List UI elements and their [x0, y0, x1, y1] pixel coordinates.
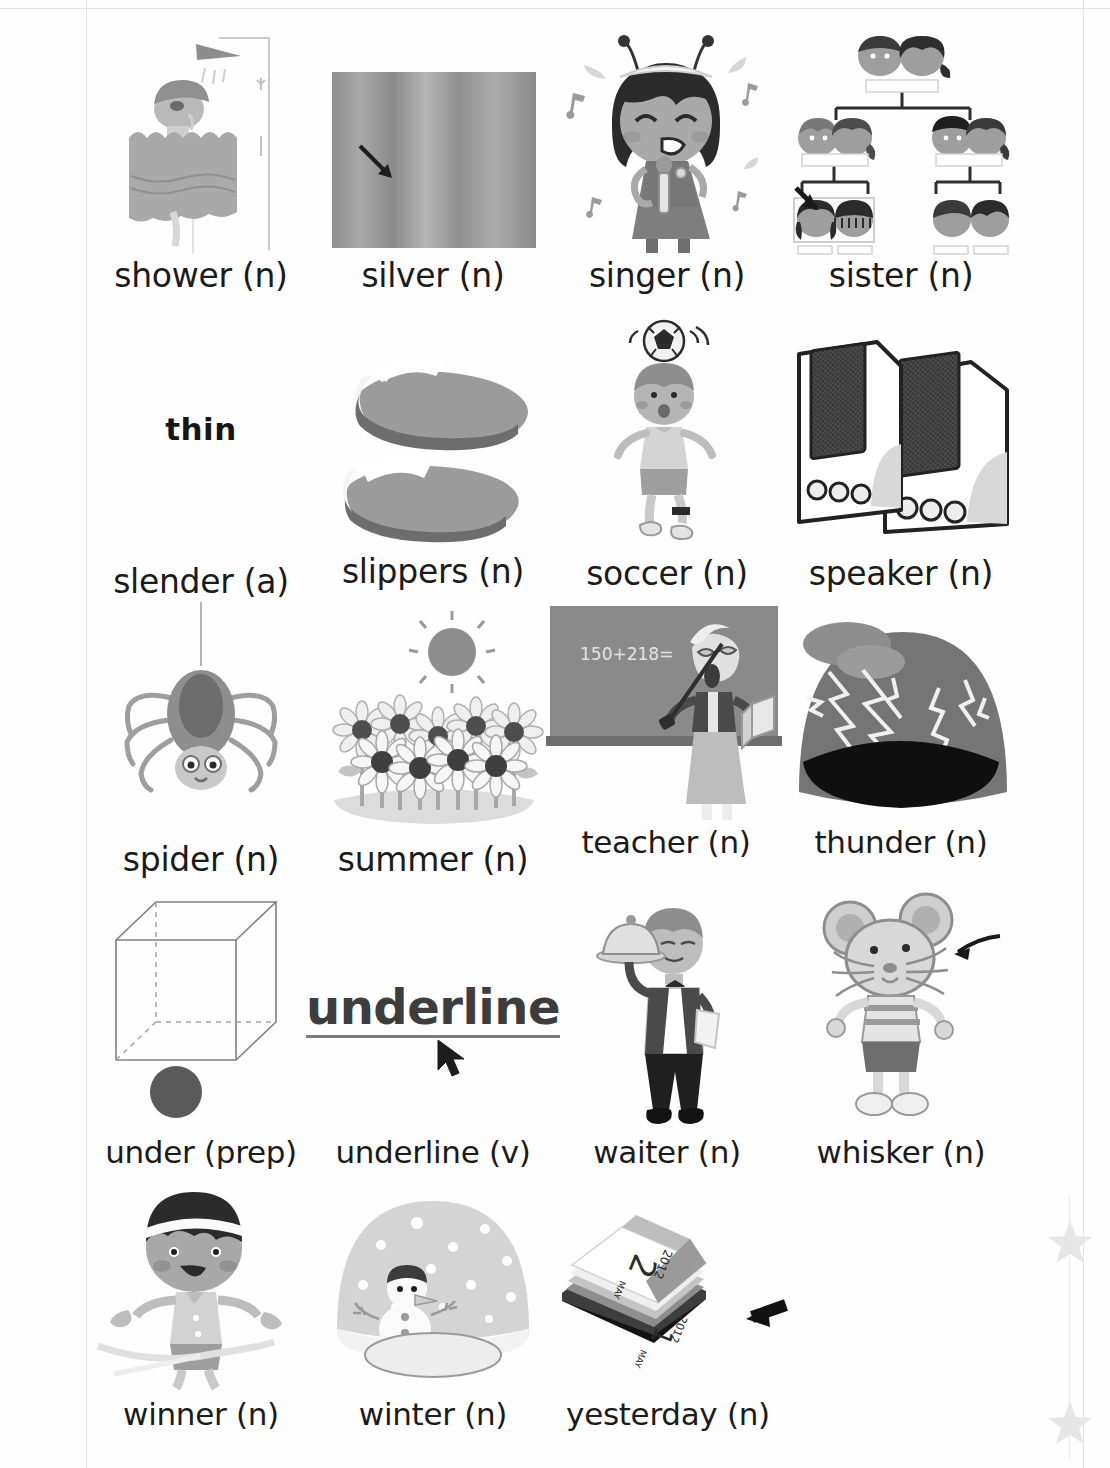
illustration-waiter: [552, 890, 782, 1130]
illustration-under: [86, 890, 316, 1130]
illustration-sister: [786, 24, 1016, 254]
illustration-singer: [552, 24, 782, 254]
word-label: singer (n): [552, 256, 782, 295]
blackboard-equation: 150+218=: [580, 644, 673, 664]
word-label: shower (n): [86, 256, 316, 295]
entry-sister[interactable]: sister (n): [786, 24, 1016, 314]
illustration-word-underline: underline: [306, 983, 560, 1038]
entry-shower[interactable]: shower (n): [86, 24, 316, 314]
entry-summer[interactable]: summer (n): [318, 602, 548, 892]
star-upper-icon: [1046, 1219, 1094, 1267]
illustration-soccer: [552, 314, 782, 544]
entry-under[interactable]: under (prep): [86, 890, 316, 1180]
entry-grid: shower (n): [86, 14, 1083, 1464]
page-rule-top: [0, 8, 1110, 9]
illustration-underline: underline: [318, 890, 548, 1130]
word-label: waiter (n): [552, 1134, 782, 1170]
entry-slender[interactable]: thin slender (a): [86, 314, 316, 604]
word-label: soccer (n): [552, 554, 782, 593]
entry-row-2: thin slender (a): [86, 314, 1083, 604]
entry-soccer[interactable]: soccer (n): [552, 314, 782, 604]
illustration-silver: [318, 24, 548, 254]
calendar-month-bottom: MAY: [632, 1348, 648, 1370]
word-label: whisker (n): [786, 1134, 1016, 1170]
entry-thunder[interactable]: thunder (n): [786, 602, 1016, 892]
entry-waiter[interactable]: waiter (n): [552, 890, 782, 1180]
word-label: slender (a): [86, 562, 316, 601]
star-lower-icon: [1046, 1400, 1094, 1448]
word-label: winner (n): [86, 1396, 316, 1432]
entry-singer[interactable]: singer (n): [552, 24, 782, 314]
entry-silver[interactable]: silver (n): [318, 24, 548, 314]
word-label: sister (n): [786, 256, 1016, 295]
entry-slippers[interactable]: slippers (n): [318, 314, 548, 604]
word-label: summer (n): [318, 840, 548, 879]
entry-speaker[interactable]: speaker (n): [786, 314, 1016, 604]
word-label: speaker (n): [786, 554, 1016, 593]
illustration-slippers: [318, 314, 548, 544]
entry-row-4: under (prep) underline underline (v): [86, 890, 1083, 1180]
illustration-yesterday: 2012 2 MAY 2012 1 MAY: [538, 1184, 798, 1389]
illustration-speaker: [786, 314, 1016, 544]
word-label: teacher (n): [546, 824, 786, 860]
illustration-word-thin: thin: [165, 411, 237, 447]
illustration-summer: [318, 602, 548, 832]
word-label: thunder (n): [786, 824, 1016, 860]
entry-yesterday[interactable]: 2012 2 MAY 2012 1 MAY: [538, 1184, 798, 1464]
word-label: silver (n): [318, 256, 548, 295]
illustration-slender: thin: [86, 314, 316, 544]
entry-winner[interactable]: winner (n): [86, 1184, 316, 1464]
illustration-winner: [86, 1184, 316, 1389]
word-label: yesterday (n): [538, 1396, 798, 1432]
entry-row-3: spider (n): [86, 602, 1083, 892]
illustration-teacher: 150+218=: [546, 602, 786, 820]
word-label: slippers (n): [318, 552, 548, 591]
entry-winter[interactable]: winter (n): [318, 1184, 548, 1464]
entry-spider[interactable]: spider (n): [86, 602, 316, 892]
illustration-thunder: [786, 602, 1016, 827]
entry-whisker[interactable]: whisker (n): [786, 890, 1016, 1180]
entry-row-1: shower (n): [86, 24, 1083, 314]
word-label: under (prep): [86, 1134, 316, 1170]
illustration-winter: [318, 1184, 548, 1389]
word-label: underline (v): [318, 1134, 548, 1170]
entry-row-5: winner (n): [86, 1184, 1083, 1464]
cursor-arrow-icon: [436, 1038, 470, 1078]
word-label: spider (n): [86, 840, 316, 879]
word-label: winter (n): [318, 1396, 548, 1432]
illustration-spider: [86, 602, 316, 832]
illustration-shower: [86, 24, 316, 254]
entry-underline[interactable]: underline underline (v): [318, 890, 548, 1180]
entry-teacher[interactable]: 150+218=: [546, 602, 786, 892]
illustration-whisker: [786, 890, 1016, 1130]
dictionary-page: shower (n): [0, 0, 1110, 1468]
